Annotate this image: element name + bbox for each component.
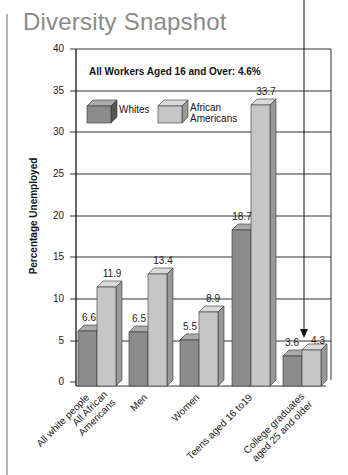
- svg-text:6.5: 6.5: [132, 313, 146, 324]
- bar-african-americans: [148, 268, 173, 386]
- legend: Whites African Americans: [87, 100, 237, 124]
- bar-african-americans: [97, 281, 122, 386]
- bar-african-americans: [302, 344, 327, 386]
- svg-text:35: 35: [53, 85, 65, 96]
- svg-text:3.6: 3.6: [285, 337, 299, 348]
- svg-text:30: 30: [53, 126, 65, 137]
- legend-item-whites: Whites: [87, 100, 150, 123]
- svg-text:Women: Women: [169, 392, 201, 424]
- legend-item-african-americans: African Americans: [158, 100, 237, 124]
- svg-text:5.5: 5.5: [183, 321, 197, 332]
- x-category-labels: All white people All African Americans M…: [34, 389, 315, 464]
- bar-group-teens: 18.7 33.7: [232, 86, 276, 386]
- bar-african-americans: [251, 99, 276, 386]
- svg-text:40: 40: [53, 43, 65, 54]
- svg-text:33.7: 33.7: [256, 86, 276, 97]
- y-axis-label: Percentage Unemployed: [28, 158, 39, 275]
- svg-text:25: 25: [53, 168, 65, 179]
- svg-text:6.6: 6.6: [82, 312, 96, 323]
- svg-text:Whites: Whites: [119, 104, 150, 115]
- svg-text:African: African: [190, 102, 221, 113]
- overall-rate-note: All Workers Aged 16 and Over: 4.6%: [89, 66, 261, 77]
- svg-text:8.9: 8.9: [206, 293, 220, 304]
- bar-african-americans: [199, 306, 224, 386]
- svg-text:18.7: 18.7: [232, 211, 252, 222]
- svg-text:20: 20: [53, 210, 65, 221]
- svg-text:4.3: 4.3: [311, 335, 325, 346]
- bar-group-women: 5.5 8.9: [180, 293, 224, 386]
- bar-group-all: 6.6 11.9: [78, 268, 122, 386]
- svg-text:Americans: Americans: [190, 113, 237, 124]
- svg-text:13.4: 13.4: [153, 255, 173, 266]
- bar-chart: 0 5 10 15 20 25 30 35 40 Percentage Unem…: [0, 0, 348, 475]
- y-tick-labels: 0 5 10 15 20 25 30 35 40: [53, 43, 65, 387]
- svg-text:5: 5: [58, 335, 64, 346]
- bar-group-men: 6.5 13.4: [129, 255, 173, 386]
- bar-group-college-grads: 3.6 4.3: [283, 335, 327, 386]
- callout-arrow-icon: [300, 0, 308, 338]
- svg-text:11.9: 11.9: [103, 268, 122, 279]
- svg-text:10: 10: [53, 293, 65, 304]
- svg-text:Men: Men: [128, 392, 150, 414]
- svg-text:0: 0: [58, 376, 64, 387]
- svg-text:15: 15: [53, 251, 65, 262]
